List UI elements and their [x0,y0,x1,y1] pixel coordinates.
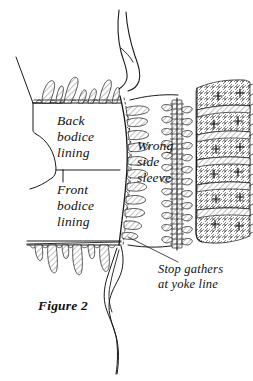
figure-caption: Figure 2 [38,298,88,314]
figure-illustration: Back bodice lining Front bodice lining W… [0,0,253,381]
neck-shoulder-profile [118,10,140,91]
top-gather-ruffle [34,77,120,103]
label-front-bodice-lining: Front bodice lining [57,182,94,230]
label-stop-gathers-at-yoke-line: Stop gathers at yoke line [158,262,223,292]
sleeve-panel [196,80,253,243]
label-back-bodice-lining: Back bodice lining [57,113,94,161]
line-art-drawing [0,0,253,381]
label-wrong-side-sleeve: Wrong side sleeve [137,138,174,186]
bottom-hem-fringe [27,242,121,275]
